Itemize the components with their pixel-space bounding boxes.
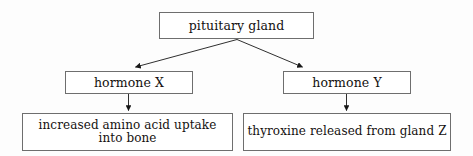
hormone-flow-diagram: pituitary gland hormone X hormone Y incr… [0,0,473,156]
node-pituitary-gland: pituitary gland [159,12,314,39]
arrow-pituitary-to-hormone-y [237,40,303,68]
node-outcome-thyroxine-released: thyroxine released from gland Z [243,113,451,151]
node-hormone-y: hormone Y [283,71,411,94]
arrow-pituitary-to-hormone-x [136,40,238,68]
node-outcome-amino-acid-uptake: increased amino acid uptake into bone [22,113,233,151]
node-hormone-x: hormone X [65,71,193,94]
